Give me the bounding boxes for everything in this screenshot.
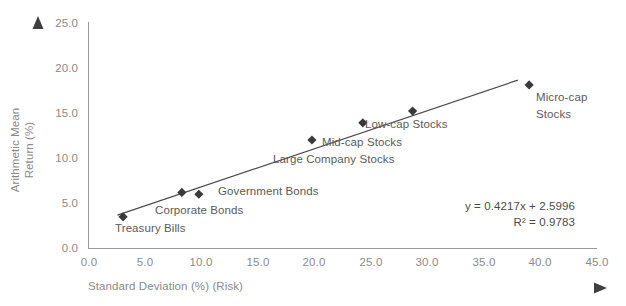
- y-axis-title-line1: Arithmetic Mean: [9, 108, 21, 193]
- x-tick-30: 30.0: [411, 256, 443, 268]
- x-tick-20: 20.0: [298, 256, 330, 268]
- y-tick-20: 20.0: [46, 62, 78, 74]
- label-treasury-bills: Treasury Bills: [115, 222, 186, 234]
- label-microcap-stocks-line2: Stocks: [536, 108, 571, 120]
- label-microcap-stocks-line1: Micro-cap: [536, 91, 587, 103]
- x-tick-10: 10.0: [185, 256, 217, 268]
- data-point-marker: [177, 188, 186, 197]
- label-lowcap-stocks: Low-cap Stocks: [365, 118, 448, 130]
- y-tick-0: 0.0: [46, 242, 78, 254]
- label-midcap-stocks: Mid-cap Stocks: [322, 136, 402, 148]
- y-axis-title: Arithmetic Mean Return (%): [8, 60, 36, 240]
- x-tick-25: 25.0: [355, 256, 387, 268]
- data-point-marker: [307, 135, 316, 144]
- data-point-marker: [194, 190, 203, 199]
- data-point-marker: [525, 80, 534, 89]
- y-axis-title-line2: Return (%): [23, 122, 35, 179]
- x-tick-0: 0.0: [73, 256, 105, 268]
- y-tick-10: 10.0: [46, 152, 78, 164]
- x-axis-title: Standard Deviation (%) (Risk): [88, 280, 243, 292]
- trendline-equation: y = 0.4217x + 2.5996: [410, 200, 575, 212]
- x-tick-35: 35.0: [468, 256, 500, 268]
- label-government-bonds: Government Bonds: [218, 185, 319, 197]
- x-tick-45: 45.0: [581, 256, 613, 268]
- label-corporate-bonds: Corporate Bonds: [155, 204, 243, 216]
- x-tick-15: 15.0: [242, 256, 274, 268]
- x-tick-40: 40.0: [524, 256, 556, 268]
- y-tick-5: 5.0: [46, 197, 78, 209]
- risk-return-scatter-chart: 25.0 20.0 15.0 10.0 5.0 0.0 0.0 5.0 10.0…: [0, 0, 626, 306]
- y-tick-25: 25.0: [46, 17, 78, 29]
- increasing-risk-arrow-icon: [282, 283, 607, 294]
- y-tick-15: 15.0: [46, 107, 78, 119]
- trendline-r-squared: R² = 0.9783: [410, 216, 575, 228]
- label-large-company-stocks: Large Company Stocks: [273, 153, 395, 165]
- x-tick-5: 5.0: [129, 256, 161, 268]
